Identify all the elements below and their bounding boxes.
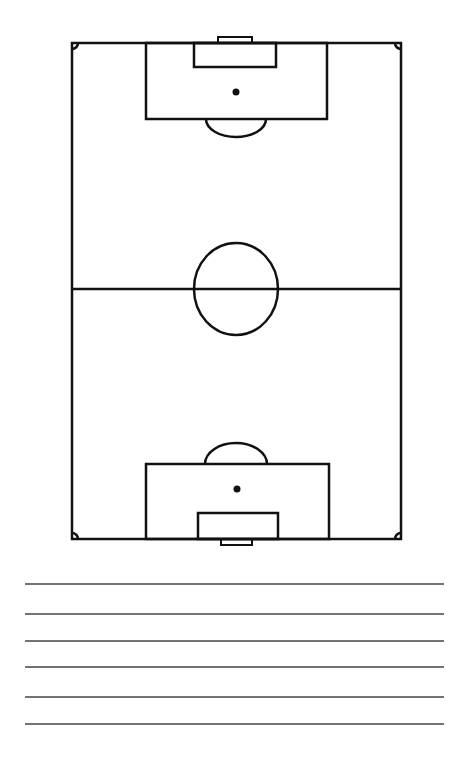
top-goal-area xyxy=(194,43,276,67)
soccer-pitch xyxy=(0,0,464,766)
bottom-penalty-area xyxy=(146,464,329,539)
bottom-penalty-arc xyxy=(205,443,267,464)
bottom-penalty-spot xyxy=(234,486,241,493)
top-penalty-area xyxy=(146,43,327,119)
top-penalty-spot xyxy=(233,89,240,96)
bottom-goal-area xyxy=(198,513,278,539)
top-penalty-arc xyxy=(206,119,266,137)
